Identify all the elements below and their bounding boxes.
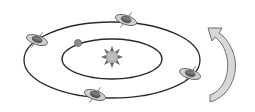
sun-icon xyxy=(101,46,123,68)
small-planet-icon xyxy=(74,39,81,46)
orbit-diagram: Orbits around the Sun with ringed planet… xyxy=(0,0,255,112)
rotation-arrow-icon xyxy=(208,28,235,102)
ringed-planet-top-icon xyxy=(113,8,139,32)
ringed-planet-bottom-icon xyxy=(82,83,108,107)
